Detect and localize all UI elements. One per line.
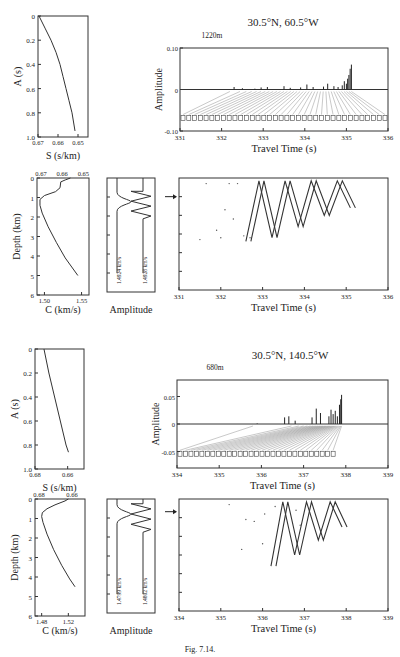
c-axis-label: C (km/s)	[45, 304, 80, 316]
location-title: 30.5°N, 140.5°W	[252, 349, 329, 361]
ray-connector	[322, 92, 324, 115]
ray-label-glyph	[181, 116, 185, 121]
y-tick-label: 2	[29, 535, 33, 543]
ray-label-glyph	[205, 451, 209, 456]
ray-dot	[237, 183, 238, 184]
ray-connector	[206, 92, 256, 115]
c-axis-label: C (km/s)	[42, 625, 77, 637]
location-title: 30.5°N, 60.5°W	[247, 16, 319, 28]
ray-dot	[199, 239, 200, 240]
ray-label-glyph	[285, 116, 289, 121]
ray-label-glyph	[298, 451, 302, 456]
mode-shapes-plot: 1.4924 km/s1.4928 km/sAmplitude	[107, 178, 155, 315]
ray-label-glyph	[354, 116, 358, 121]
depth-axis-label: Depth (km)	[9, 534, 21, 580]
ray-label-glyph	[360, 116, 364, 121]
ray-label-glyph	[256, 116, 260, 121]
y-tick-label: 0.6	[26, 86, 35, 94]
ray-label-glyph	[343, 116, 347, 121]
x-tick-label: 0.67	[32, 139, 44, 146]
ray-connector	[200, 92, 251, 115]
ray-dot	[220, 237, 221, 238]
a-axis-label: A (s)	[9, 399, 21, 419]
ray-times-plot: 331332333334335336Travel Time (s)	[165, 178, 394, 314]
ray-label-glyph	[200, 451, 204, 456]
ray-connector	[293, 92, 309, 115]
mode-2-curve	[131, 178, 151, 273]
ray-label-glyph	[302, 116, 306, 121]
ray-label-glyph	[282, 451, 286, 456]
ray-label-glyph	[304, 451, 308, 456]
a-axis-label: A (s)	[12, 67, 24, 87]
y-tick-label: 0	[29, 346, 33, 354]
ray-connector	[298, 92, 312, 115]
ray-label-glyph	[210, 116, 214, 121]
mode-amplitude-label: Amplitude	[110, 625, 153, 636]
ray-label-glyph	[308, 116, 312, 121]
ray-label-glyph	[204, 116, 208, 121]
ray-connector	[326, 92, 327, 115]
travel-time-axis-label: Travel Time (s)	[252, 143, 317, 155]
x-tick-label: 334	[299, 293, 310, 301]
ray-connector	[229, 92, 273, 115]
ray-label-glyph	[279, 116, 283, 121]
x-tick-label: 338	[341, 614, 352, 622]
y-tick-label: 0.05	[164, 394, 175, 401]
panel-bottom: 30.5°N, 140.5°W680m00.20.40.60.81.00.680…	[9, 346, 394, 637]
ray-label-glyph	[221, 116, 225, 121]
ray-dot	[228, 183, 229, 184]
x-tick-label: 336	[256, 471, 267, 479]
depth-axis-label: Depth (km)	[11, 213, 23, 259]
ray-label-glyph	[183, 451, 187, 456]
ray-label-glyph	[287, 451, 291, 456]
ray-label-glyph	[250, 116, 254, 121]
ray-label-glyph	[211, 451, 215, 456]
a-vs-s-frame	[35, 349, 84, 469]
ray-label-glyph	[262, 116, 266, 121]
ray-label-glyph	[266, 451, 270, 456]
x-tick-label: 336	[257, 614, 268, 622]
y-tick-label: 0	[32, 13, 36, 21]
ray-label-glyph	[325, 116, 329, 121]
source-arrow-icon	[173, 509, 177, 514]
ray-dot	[245, 519, 246, 520]
ray-times-plot: 334335336337338339Travel Time (s)	[165, 499, 394, 635]
x-tick-label: 331	[174, 293, 185, 301]
ray-label-glyph	[320, 451, 324, 456]
ray-connector	[180, 426, 253, 450]
ray-dot	[295, 510, 296, 511]
ray-label-glyph	[314, 116, 318, 121]
ray-label-glyph	[233, 116, 237, 121]
y-tick-label: 2	[31, 214, 35, 222]
s-axis-label: S (s/km)	[46, 150, 80, 162]
source-depth-label: 680m	[206, 363, 223, 372]
ray-dot	[216, 230, 217, 231]
y-tick-label: 0	[29, 496, 33, 504]
ray-dot	[233, 218, 234, 219]
ray-label-glyph	[216, 116, 220, 121]
sound-speed-profile	[42, 499, 75, 587]
top-tick-label: 0.66	[56, 170, 68, 177]
mode-speed-label: 1.4802 km/s	[142, 578, 148, 605]
y-tick-label: -0.05	[161, 449, 175, 456]
y-tick-label: 0.2	[26, 37, 35, 45]
ray-label-glyph	[348, 116, 352, 121]
x-tick-label: 336	[383, 293, 394, 301]
mode-shapes-plot: 1.4799 km/s1.4802 km/sAmplitude	[107, 499, 155, 636]
x-tick-label: 0.66	[62, 471, 74, 478]
ray-label-glyph	[331, 451, 335, 456]
figure-caption: Fig. 7.14.	[185, 645, 216, 654]
y-tick-label: 0.4	[26, 61, 35, 69]
top-tick-label: 0.66	[66, 491, 78, 498]
panel-top: 30.5°N, 60.5°W1220m00.20.40.60.81.00.670…	[11, 13, 394, 316]
ray-connector	[229, 426, 319, 450]
y-tick-label: 0.8	[23, 442, 32, 450]
ray-connector	[270, 92, 297, 115]
ray-label-glyph	[187, 116, 191, 121]
amplitude-axis-label: Amplitude	[153, 68, 164, 111]
x-tick-label: 339	[383, 614, 394, 622]
travel-time-axis-label: Travel Time (s)	[251, 623, 316, 635]
ray-label-glyph	[216, 451, 220, 456]
x-tick-label: 337	[299, 614, 310, 622]
ray-label-glyph	[193, 116, 197, 121]
